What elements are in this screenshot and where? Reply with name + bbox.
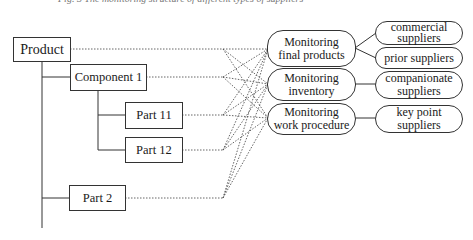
monitoring-final-products-line1: Monitoring: [284, 36, 339, 49]
commercial-suppliers-line2: suppliers: [397, 33, 440, 44]
node-part-12[interactable]: Part 12: [125, 137, 183, 163]
node-component-1-label: Component 1: [75, 70, 143, 85]
node-part-11[interactable]: Part 11: [125, 102, 183, 129]
companionate-suppliers-line2: suppliers: [397, 85, 440, 98]
node-part-2-label: Part 2: [83, 191, 113, 206]
node-component-1[interactable]: Component 1: [70, 64, 147, 91]
monitoring-inventory-line2: inventory: [289, 85, 335, 98]
monitoring-final-products-line2: final products: [278, 49, 344, 62]
node-commercial-suppliers[interactable]: commercial suppliers: [375, 21, 463, 45]
monitoring-work-procedure-line2: work procedure: [274, 119, 350, 132]
node-companionate-suppliers[interactable]: companionate suppliers: [375, 71, 463, 99]
node-key-point-suppliers[interactable]: key point suppliers: [375, 105, 463, 133]
node-prior-suppliers[interactable]: prior suppliers: [375, 47, 463, 69]
node-monitoring-work-procedure[interactable]: Monitoring work procedure: [267, 103, 356, 135]
node-part-12-label: Part 12: [136, 143, 172, 158]
node-part-2[interactable]: Part 2: [69, 185, 126, 211]
prior-suppliers-label: prior suppliers: [384, 52, 454, 65]
node-part-11-label: Part 11: [136, 108, 171, 123]
node-monitoring-inventory[interactable]: Monitoring inventory: [267, 68, 356, 101]
supplier-links: [355, 33, 376, 118]
node-monitoring-final-products[interactable]: Monitoring final products: [267, 30, 356, 67]
key-point-suppliers-line2: suppliers: [397, 119, 440, 132]
node-product[interactable]: Product: [13, 37, 71, 62]
node-product-label: Product: [20, 42, 64, 58]
monitoring-inventory-line1: Monitoring: [284, 72, 339, 85]
